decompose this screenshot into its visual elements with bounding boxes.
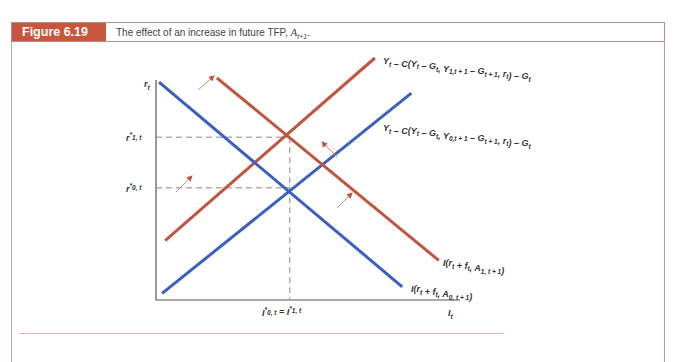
is-curve-initial-label: Yt – C(Yt – Gt, Y0,t + 1 – Gt + 1, rt) –… <box>383 123 531 150</box>
x-axis-label: It <box>448 308 454 320</box>
i-star-label: I*0, t = I*1, t <box>262 305 302 319</box>
r1-star-label: r*1, t <box>126 131 142 143</box>
shift-arrow-1 <box>176 176 192 192</box>
is-curve-shifted-label: Yt – C(Yt – Gt, Y1,t + 1 – Gt + 1, rt) –… <box>383 56 531 83</box>
y-axis-label: rt <box>144 79 151 91</box>
investment-curve-initial-label: I(rt + ft, A0, t + 1) <box>411 284 472 302</box>
investment-curve-shifted-label: I(rt + ft, A1, t + 1) <box>443 258 504 276</box>
shift-arrow-2 <box>198 76 214 90</box>
r0-star-label: r*0, t <box>126 182 142 194</box>
shift-arrow-4 <box>337 193 352 208</box>
investment-curve-initial <box>159 82 402 287</box>
investment-curve-shifted <box>217 78 439 261</box>
shift-arrow-3 <box>322 142 337 157</box>
